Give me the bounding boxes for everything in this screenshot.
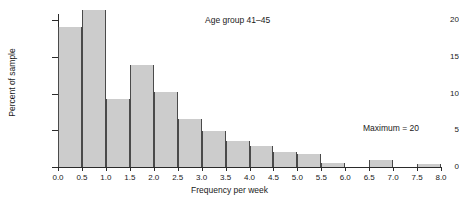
histogram-figure: Age group 41–45 Maximum = 20 Percent of … <box>0 0 459 203</box>
histogram-bar <box>154 92 178 167</box>
x-tick-label: 8.0 <box>426 174 456 182</box>
histogram-bar <box>82 10 106 167</box>
x-tick-mark <box>202 167 203 171</box>
histogram-bar <box>178 119 202 167</box>
x-tick-mark <box>250 167 251 171</box>
x-tick-mark <box>58 167 59 171</box>
x-tick-mark <box>393 167 394 171</box>
histogram-bar <box>369 160 393 167</box>
histogram-bar <box>226 141 250 167</box>
histogram-bar <box>130 65 154 167</box>
x-tick-mark <box>345 167 346 171</box>
histogram-bar <box>58 27 82 167</box>
x-tick-mark <box>441 167 442 171</box>
x-tick-mark <box>321 167 322 171</box>
histogram-bar <box>417 164 441 167</box>
plot-area <box>58 6 441 167</box>
x-tick-mark <box>417 167 418 171</box>
x-tick-mark <box>297 167 298 171</box>
histogram-bar <box>321 163 345 167</box>
x-tick-mark <box>154 167 155 171</box>
histogram-bar <box>273 152 297 167</box>
x-tick-mark <box>82 167 83 171</box>
histogram-bar <box>297 154 321 167</box>
x-tick-mark <box>106 167 107 171</box>
x-axis-label: Frequency per week <box>0 186 459 195</box>
x-tick-mark <box>273 167 274 171</box>
histogram-bar <box>250 146 274 167</box>
histogram-bar <box>202 131 226 167</box>
y-axis-label: Percent of sample <box>8 33 17 133</box>
x-tick-mark <box>178 167 179 171</box>
x-tick-mark <box>369 167 370 171</box>
x-tick-mark <box>226 167 227 171</box>
histogram-bar <box>106 99 130 167</box>
x-tick-mark <box>130 167 131 171</box>
